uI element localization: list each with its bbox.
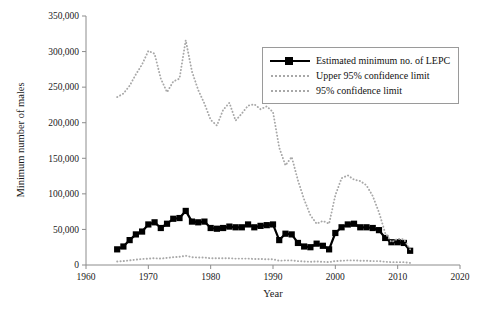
series-marker bbox=[176, 215, 182, 221]
series-marker bbox=[245, 221, 251, 227]
series-marker bbox=[233, 224, 239, 230]
legend-item-estimated-minimum: Estimated minimum no. of LEPC bbox=[270, 53, 450, 68]
y-tick-label: 150,000 bbox=[48, 154, 79, 164]
legend-key-dotted-lower-icon bbox=[270, 85, 310, 97]
series-marker bbox=[388, 239, 394, 245]
series-marker bbox=[133, 231, 139, 237]
series-marker bbox=[120, 243, 126, 249]
legend-key-dotted-upper-icon bbox=[270, 70, 310, 82]
y-tick-label: 0 bbox=[74, 260, 79, 270]
series-marker bbox=[251, 224, 257, 230]
y-tick-label: 250,000 bbox=[48, 82, 79, 92]
series-marker bbox=[220, 225, 226, 231]
chart-legend: Estimated minimum no. of LEPC Upper 95% … bbox=[262, 47, 459, 104]
series-marker bbox=[301, 243, 307, 249]
series-marker bbox=[314, 241, 320, 247]
x-tick-label: 1960 bbox=[77, 272, 96, 282]
series-marker bbox=[139, 228, 145, 234]
y-tick-label: 100,000 bbox=[48, 189, 79, 199]
series-marker bbox=[195, 219, 201, 225]
series-marker bbox=[170, 216, 176, 222]
series-marker bbox=[214, 226, 220, 232]
series-marker bbox=[351, 221, 357, 227]
legend-label-upper-confidence: Upper 95% confidence limit bbox=[316, 70, 430, 82]
series-marker bbox=[264, 222, 270, 228]
series-marker bbox=[189, 219, 195, 225]
series-marker bbox=[183, 208, 189, 214]
series-marker bbox=[208, 225, 214, 231]
series-marker bbox=[270, 221, 276, 227]
y-axis-tick-labels: 050,000100,000150,000200,000250,000300,0… bbox=[48, 11, 79, 270]
series-line-2 bbox=[117, 256, 410, 263]
series-marker bbox=[151, 219, 157, 225]
legend-item-lower-confidence: 95% confidence limit bbox=[270, 83, 450, 98]
y-tick-label: 50,000 bbox=[53, 225, 79, 235]
x-tick-label: 2020 bbox=[451, 272, 470, 282]
series-marker bbox=[376, 227, 382, 233]
series-marker bbox=[295, 240, 301, 246]
legend-label-lower-confidence: 95% confidence limit bbox=[316, 85, 402, 97]
series-marker bbox=[332, 230, 338, 236]
x-axis-title: Year bbox=[263, 288, 283, 299]
y-tick-label: 350,000 bbox=[48, 11, 79, 21]
series-marker bbox=[127, 237, 133, 243]
legend-item-upper-confidence: Upper 95% confidence limit bbox=[270, 68, 450, 83]
x-tick-label: 1970 bbox=[139, 272, 158, 282]
y-tick-label: 200,000 bbox=[48, 118, 79, 128]
series-marker bbox=[239, 224, 245, 230]
series-marker bbox=[289, 231, 295, 237]
x-tick-label: 1980 bbox=[201, 272, 220, 282]
series-marker bbox=[345, 221, 351, 227]
x-axis-tick-labels: 1960197019801990200020102020 bbox=[77, 272, 470, 282]
x-tick-label: 2010 bbox=[388, 272, 407, 282]
x-tick-label: 1990 bbox=[264, 272, 283, 282]
series-marker bbox=[370, 225, 376, 231]
series-marker bbox=[164, 221, 170, 227]
series-marker bbox=[226, 223, 232, 229]
legend-label-estimated-minimum: Estimated minimum no. of LEPC bbox=[316, 55, 450, 67]
series-marker bbox=[276, 237, 282, 243]
chart-figure: 050,000100,000150,000200,000250,000300,0… bbox=[0, 0, 482, 310]
y-tick-label: 300,000 bbox=[48, 47, 79, 57]
series-marker bbox=[338, 224, 344, 230]
series-marker bbox=[282, 231, 288, 237]
series-marker bbox=[363, 224, 369, 230]
series-marker bbox=[307, 244, 313, 250]
series-marker bbox=[158, 225, 164, 231]
series-marker bbox=[257, 223, 263, 229]
series-marker bbox=[326, 246, 332, 252]
series-marker bbox=[114, 246, 120, 252]
legend-key-solid-square-icon bbox=[270, 55, 310, 67]
series-marker bbox=[201, 219, 207, 225]
series-marker bbox=[145, 221, 151, 227]
y-axis-title: Minimum number of males bbox=[15, 82, 26, 197]
series-marker bbox=[320, 243, 326, 249]
series-marker bbox=[357, 224, 363, 230]
x-tick-label: 2000 bbox=[326, 272, 345, 282]
